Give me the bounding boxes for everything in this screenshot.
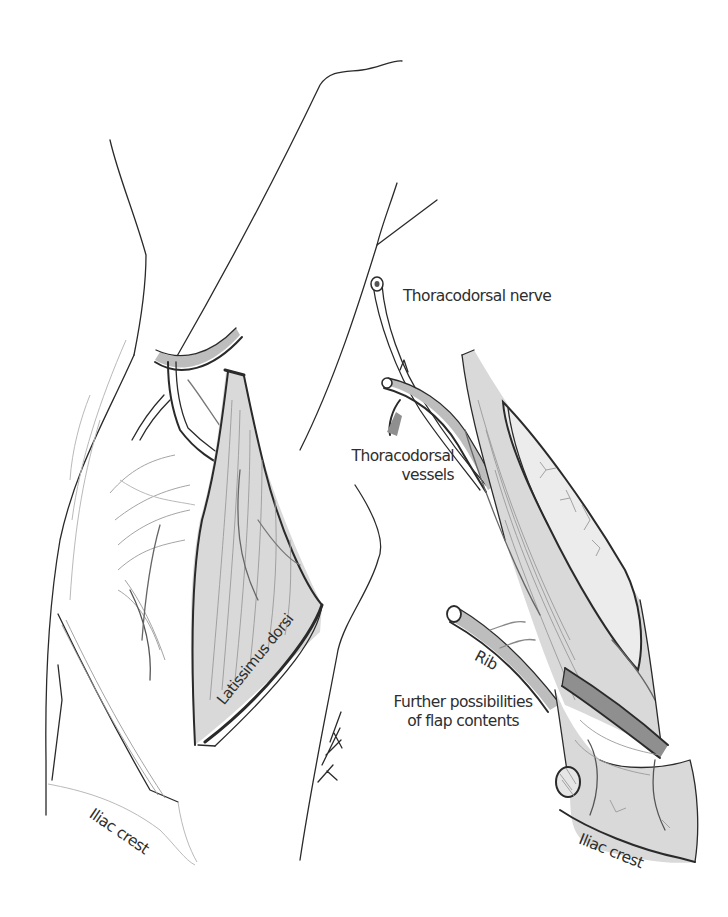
latissimus-flap-right [462, 350, 662, 750]
serratus-strands [110, 455, 195, 680]
label-thoracodorsal-nerve: Thoracodorsal nerve [403, 287, 551, 306]
label-thoracodorsal-vessels: Thoracodorsal vessels [334, 447, 454, 485]
label-further-possibilities: Further possibilities of flap contents [378, 693, 548, 731]
latissimus-flap-left [191, 370, 322, 746]
label-thoracodorsal-vessels-line2: vessels [334, 466, 454, 485]
label-further-possibilities-line1: Further possibilities [378, 693, 548, 712]
artist-signature [318, 712, 342, 782]
label-thoracodorsal-vessels-line1: Thoracodorsal [334, 447, 454, 466]
label-further-possibilities-line2: of flap contents [378, 712, 548, 731]
